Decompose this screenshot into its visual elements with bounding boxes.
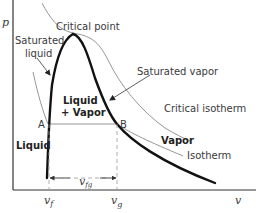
saturated-vapor-pointer xyxy=(110,75,150,100)
critical-point-label: Critical point xyxy=(56,21,120,32)
liquid-region-label: Liquid xyxy=(16,140,51,151)
vf-tick-label: vf xyxy=(44,194,55,208)
vg-tick-label: vg xyxy=(111,194,122,209)
saturated-liquid-label-1: Saturated xyxy=(15,35,64,46)
isotherm-label: Isotherm xyxy=(187,150,231,161)
saturated-vapor-label: Saturated vapor xyxy=(137,66,219,77)
y-axis-label: p xyxy=(2,16,9,29)
isotherm-liquid-branch xyxy=(33,72,48,124)
liquid-vapor-label-2: + Vapor xyxy=(61,107,106,118)
saturated-liquid-label-2: liquid xyxy=(25,48,52,59)
liquid-vapor-label-1: Liquid xyxy=(63,95,98,106)
critical-isotherm-label: Critical isotherm xyxy=(164,103,246,114)
saturated-liquid-pointer xyxy=(37,58,50,75)
point-a-label: A xyxy=(38,119,45,130)
x-axis-label: v xyxy=(235,194,242,207)
pv-diagram: p v Critical point Saturated liquid Satu… xyxy=(0,0,262,213)
vfg-label: vfg xyxy=(79,175,93,189)
point-b-label: B xyxy=(120,119,127,130)
vapor-region-label: Vapor xyxy=(161,135,194,146)
